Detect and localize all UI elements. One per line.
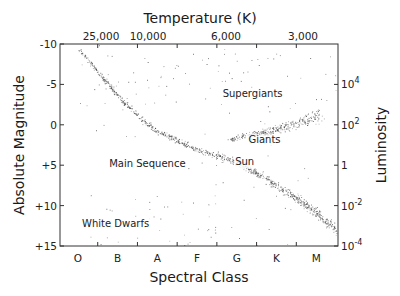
region-label-sun: Sun [235,156,254,167]
y2-tick-label: 104 [341,76,359,90]
x2-tick-label: 25,000 [83,30,120,42]
y-tick-label: +15 [35,240,57,252]
y-tick-label: +5 [42,159,57,171]
hr-diagram: OBAFGKM25,00010,0006,0003,000-10-50+5+10… [0,0,400,296]
y2-tick-label: 10-2 [341,198,362,212]
y-tick-label: -5 [47,78,57,90]
x-tick-label: G [233,252,241,264]
x-axis-title: Spectral Class [149,269,248,285]
x2-tick-label: 6,000 [211,30,241,42]
x-tick-label: A [154,252,162,264]
region-labels: SupergiantsGiantsMain SequenceSunWhite D… [80,88,285,230]
y2-tick-label: 10-4 [341,238,362,252]
region-label-white-dwarfs: White Dwarfs [82,218,149,229]
region-label-giants: Giants [248,134,280,145]
x-tick-label: B [114,252,121,264]
region-label-main-sequence: Main Sequence [109,158,185,169]
x2-tick-label: 3,000 [288,30,318,42]
x-tick-label: F [194,252,200,264]
region-label-supergiants: Supergiants [223,88,283,99]
star-scatter-points [79,45,338,246]
x-tick-label: K [273,252,281,264]
y2-tick-label: 102 [341,117,359,131]
y-tick-label: -10 [40,38,57,50]
y-tick-label: 0 [50,119,57,131]
x-tick-label: O [74,252,82,264]
y2-tick-label: 1 [341,159,348,171]
y-axis-title: Absolute Magnitude [11,75,27,215]
x2-axis-title: Temperature (K) [142,10,256,26]
y-tick-label: +10 [35,200,57,212]
x-tick-label: M [312,252,321,264]
y2-axis-title: Luminosity [373,107,389,183]
x2-tick-label: 10,000 [130,30,167,42]
